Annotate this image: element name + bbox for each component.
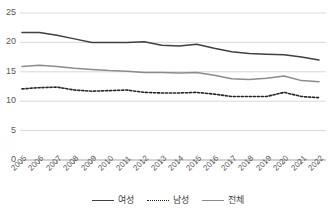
y-axis-tick-label: 10 [2,96,16,105]
y-axis-tick-label: 15 [2,67,16,76]
gridlines [20,13,326,131]
legend-swatch-icon [147,200,169,201]
chart-legend: 여성남성전체 [0,196,335,205]
legend-label: 여성 [118,196,134,205]
y-axis-tick-label: 25 [2,8,16,17]
legend-item-전체[interactable]: 전체 [202,196,244,205]
plot-area [0,0,335,222]
legend-label: 남성 [173,196,189,205]
legend-swatch-icon [202,200,224,201]
legend-swatch-icon [92,200,114,201]
series-line-전체 [22,65,319,81]
legend-item-남성[interactable]: 남성 [147,196,189,205]
line-chart: 0510152025 20052006200720082009201020112… [0,0,335,222]
series-line-여성 [22,32,319,60]
series-line-남성 [22,87,319,98]
legend-item-여성[interactable]: 여성 [92,196,134,205]
legend-label: 전체 [228,196,244,205]
y-axis-tick-label: 20 [2,37,16,46]
y-axis-tick-label: 5 [2,126,16,135]
